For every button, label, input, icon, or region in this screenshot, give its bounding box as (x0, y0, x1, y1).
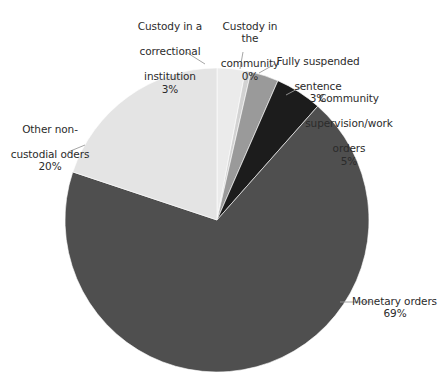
slice-value-community-supervision: 5% (300, 155, 398, 168)
slice-label-monetary: Monetary orders 69% (352, 282, 438, 332)
slice-label-line2: custodial oders (11, 148, 90, 160)
slice-label-line3: orders (333, 142, 366, 154)
slice-value-custody-institution: 3% (132, 83, 208, 96)
slice-label-custody-institution: Custody in a correctional institution 3% (132, 7, 208, 108)
slice-label-community-supervision: Community supervision/work orders 5% (300, 79, 398, 180)
slice-label-line1: Custody in the (223, 20, 278, 45)
slice-label-line1: Monetary orders (352, 295, 437, 307)
pie-chart: Custody in a correctional institution 3%… (0, 0, 440, 378)
slice-label-line3: institution (144, 70, 196, 82)
slice-label-line2: supervision/work (305, 117, 393, 129)
slice-value-monetary: 69% (352, 307, 438, 320)
slice-label-line2: community (221, 57, 279, 69)
slice-label-line1: Fully suspended (276, 55, 359, 67)
slice-value-other-noncustodial: 20% (8, 160, 92, 173)
slice-label-line1: Community (319, 92, 379, 104)
slice-label-line1: Other non- (22, 123, 78, 135)
slice-label-line1: Custody in a (138, 20, 202, 32)
slice-label-other-noncustodial: Other non- custodial oders 20% (8, 110, 92, 186)
slice-label-line2: correctional (140, 45, 201, 57)
